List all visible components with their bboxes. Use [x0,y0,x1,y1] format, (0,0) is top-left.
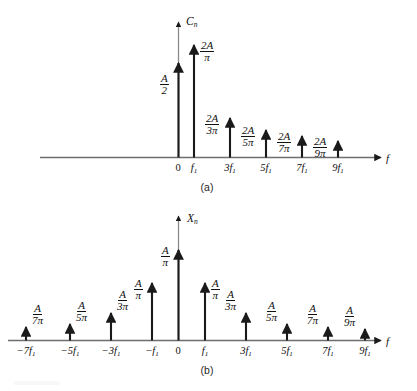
panel-b-xtick-0: 0 [175,345,180,356]
figure-line-spectra: Cn f A 2 2A π 2A 3π 2A 5π 2A 7π 2A 9π 0 … [0,0,417,391]
panel-a-caption: (a) [201,181,214,193]
panel-b-caption: (b) [201,364,214,376]
panel-b-xtick-3f1: 3f1 [240,345,252,356]
panel-a-y-axis-label: Cn [186,15,197,27]
panel-b-xtick-7f1: 7f1 [322,345,334,356]
panel-a-value-label-0: A 2 [160,73,169,96]
panel-b-xtick-neg3f1: −3f1 [102,345,121,356]
panel-b-value-label-f1: A π [211,278,220,301]
panel-a-xtick-f1: f1 [191,162,197,173]
panel-a-xtick-5f1: 5f1 [260,162,272,173]
panel-a-xtick-7f1: 7f1 [296,162,308,173]
panel-a-xtick-0: 0 [175,162,180,173]
panel-a-xtick-9f1: 9f1 [332,162,344,173]
panel-a-x-axis-label: f [386,152,389,164]
panel-b-value-label-3f1: A 3π [224,289,237,312]
panel-b-value-label-0: A π [161,245,170,268]
panel-b-plot [8,216,381,341]
panel-b-xtick-9f1: 9f1 [359,345,371,356]
panel-a-value-label-7f1: 2A 7π [277,131,291,154]
panel-b-xtick-f1: f1 [202,345,208,356]
panel-a-value-label-9f1: 2A 9π [313,136,327,159]
panel-a-xtick-3f1: 3f1 [224,162,236,173]
panel-b-value-label-9f1: A 9π [343,305,356,328]
panel-b-xtick-neg5f1: −5f1 [61,345,80,356]
panel-a-value-label-3f1: 2A 3π [205,113,219,136]
panel-b-value-label-5f1: A 5π [265,300,278,323]
scan-smudge [14,381,60,385]
panel-b-xtick-neg1f1: −f1 [145,345,159,356]
panel-b-value-label-neg3f1: A 3π [116,289,129,312]
panel-b-value-label-neg7f1: A 7π [31,303,44,326]
panel-b-value-label-neg1f1: A π [134,278,143,301]
panel-a-value-label-5f1: 2A 5π [241,125,255,148]
panel-b-x-axis-label: f [386,335,389,347]
panel-b-value-label-neg5f1: A 5π [75,300,88,323]
panel-b-value-label-7f1: A 7π [306,303,319,326]
panel-b-xtick-neg7f1: −7f1 [17,345,36,356]
panel-b-y-axis-label: Xn [187,212,198,224]
panel-a-value-label-f1: 2A π [200,40,214,63]
panel-b-xtick-5f1: 5f1 [281,345,293,356]
